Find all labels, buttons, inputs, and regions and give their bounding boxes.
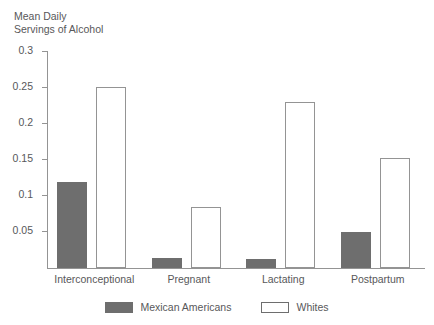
x-axis-line [47, 268, 425, 269]
legend-item[interactable]: Mexican Americans [105, 301, 231, 313]
bar-whites[interactable] [380, 158, 410, 268]
x-axis-category-label: Interconceptional [54, 273, 134, 285]
bar-group: Interconceptional [47, 52, 142, 268]
x-axis-category-label: Postpartum [351, 273, 405, 285]
bar-whites[interactable] [285, 102, 315, 268]
legend-label: Mexican Americans [140, 301, 231, 313]
bar-mexican-americans[interactable] [341, 232, 371, 268]
bar-chart-figure: Mean Daily Servings of Alcohol 0.050.10.… [0, 0, 434, 325]
bar-whites[interactable] [96, 87, 126, 268]
bar-group: Lactating [236, 52, 331, 268]
legend-item[interactable]: Whites [261, 301, 328, 313]
chart-axis-title: Mean Daily Servings of Alcohol [14, 10, 103, 36]
bar-mexican-americans[interactable] [246, 259, 276, 268]
legend-label: Whites [296, 301, 328, 313]
y-axis-tick-label: 0.2 [18, 116, 33, 128]
y-axis-tick-label: 0.05 [13, 224, 33, 236]
bar-group: Postpartum [331, 52, 426, 268]
x-axis-category-label: Pregnant [167, 273, 210, 285]
x-axis-category-label: Lactating [262, 273, 305, 285]
y-axis-tick-label: 0.1 [18, 188, 33, 200]
legend-swatch-icon [105, 302, 133, 313]
chart-legend: Mexican AmericansWhites [0, 301, 434, 313]
y-axis-tick-label: 0.25 [13, 80, 33, 92]
plot-area: 0.050.10.150.20.250.3 InterconceptionalP… [47, 52, 425, 268]
bar-mexican-americans[interactable] [57, 182, 87, 268]
bar-group: Pregnant [142, 52, 237, 268]
y-axis-tick-label: 0.3 [18, 44, 33, 56]
bar-whites[interactable] [191, 207, 221, 268]
legend-swatch-icon [261, 302, 289, 313]
y-axis-tick-label: 0.15 [13, 152, 33, 164]
bar-mexican-americans[interactable] [152, 258, 182, 268]
